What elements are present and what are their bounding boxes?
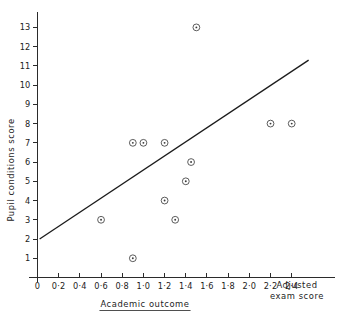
data-point xyxy=(172,216,179,223)
x-axis-secondary-line1: Adjusted xyxy=(276,280,317,290)
data-point xyxy=(193,24,200,31)
y-tick-label: 12 xyxy=(20,42,31,52)
scatter-chart: 12345678910111213 00·20·40·60·81·01·21·4… xyxy=(0,0,338,319)
data-point xyxy=(98,216,105,223)
x-tick-label: 0·8 xyxy=(115,281,129,291)
y-axis-title: Pupil conditions score xyxy=(6,118,16,221)
x-axis-secondary-title: Adjusted exam score xyxy=(270,280,324,301)
x-axis-title-text: Academic outcome xyxy=(100,299,189,309)
x-tick-label: 0·6 xyxy=(94,281,108,291)
y-tick-label: 8 xyxy=(25,119,30,129)
x-axis-secondary-line2: exam score xyxy=(270,291,324,301)
y-tick-label: 4 xyxy=(25,196,30,206)
y-tick-label: 2 xyxy=(25,234,30,244)
y-tick-label: 7 xyxy=(25,138,30,148)
x-tick-label: 1·4 xyxy=(179,281,193,291)
x-tick-label: 1·0 xyxy=(137,281,151,291)
data-points xyxy=(98,24,295,262)
x-tick-label: 1·6 xyxy=(200,281,214,291)
data-point xyxy=(140,139,147,146)
data-point xyxy=(288,120,295,127)
x-axis-title: Academic outcome xyxy=(99,299,190,311)
y-tick-label: 3 xyxy=(25,215,30,225)
data-point xyxy=(129,139,136,146)
data-point xyxy=(161,139,168,146)
y-tick-label: 11 xyxy=(20,61,31,71)
x-tick-label: 0·4 xyxy=(73,281,87,291)
y-axis-title-text: Pupil conditions score xyxy=(6,118,16,221)
y-axis-ticks: 12345678910111213 xyxy=(20,22,38,263)
y-tick-label: 6 xyxy=(25,157,30,167)
x-tick-label: 1·8 xyxy=(221,281,235,291)
data-point xyxy=(188,159,195,166)
y-tick-label: 13 xyxy=(20,22,31,32)
y-tick-label: 10 xyxy=(20,80,31,90)
regression-line xyxy=(40,60,309,239)
x-tick-label: 0 xyxy=(35,281,40,291)
x-tick-label: 2·2 xyxy=(264,281,278,291)
plot-area: 12345678910111213 00·20·40·60·81·01·21·4… xyxy=(0,0,338,319)
y-tick-label: 9 xyxy=(25,99,30,109)
data-point xyxy=(161,197,168,204)
x-tick-label: 2·0 xyxy=(243,281,257,291)
data-point xyxy=(182,178,189,185)
data-point xyxy=(267,120,274,127)
x-axis-ticks: 00·20·40·60·81·01·21·41·61·82·02·22·4 xyxy=(35,273,299,292)
data-point xyxy=(129,255,136,262)
x-tick-label: 0·2 xyxy=(52,281,66,291)
x-tick-label: 1·2 xyxy=(158,281,172,291)
y-tick-label: 5 xyxy=(25,176,30,186)
y-tick-label: 1 xyxy=(25,253,30,263)
